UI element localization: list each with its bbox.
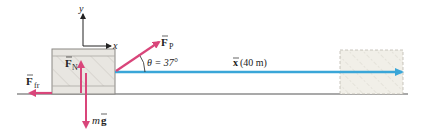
svg-text:P: P bbox=[169, 42, 174, 51]
svg-text:F: F bbox=[26, 75, 33, 87]
coordinate-axes: y x bbox=[78, 3, 118, 51]
svg-text:fr: fr bbox=[34, 81, 40, 90]
displacement-label: x (40 m) bbox=[233, 57, 267, 69]
svg-text:F: F bbox=[161, 36, 168, 48]
physics-diagram: y x x (40 m) θ = 37° F P F N m g F fr bbox=[0, 0, 424, 132]
svg-text:F: F bbox=[65, 57, 72, 69]
friction-force-label: F fr bbox=[26, 75, 40, 90]
axis-y-label: y bbox=[78, 3, 84, 14]
angle-label: θ = 37° bbox=[147, 57, 178, 68]
svg-text:N: N bbox=[72, 63, 78, 72]
block bbox=[52, 49, 115, 94]
svg-text:g: g bbox=[101, 114, 107, 126]
axis-x-label: x bbox=[112, 40, 118, 51]
svg-text:(40 m): (40 m) bbox=[240, 57, 267, 69]
vector-symbol: x bbox=[233, 57, 238, 68]
svg-text:m: m bbox=[92, 114, 100, 126]
angle-arc bbox=[139, 54, 145, 72]
weight-label: m g bbox=[92, 114, 107, 126]
pull-force-label: F P bbox=[161, 36, 174, 51]
